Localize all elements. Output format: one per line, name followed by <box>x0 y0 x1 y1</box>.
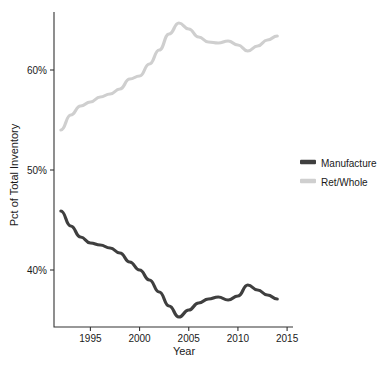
line-chart: 40%50%60% 19952000200520102015 Year Pct … <box>0 0 387 368</box>
legend-swatch-ret-whole <box>300 179 316 183</box>
x-tick-label: 2015 <box>276 333 299 344</box>
legend-swatch-manufacture <box>300 160 316 164</box>
legend: ManufactureRet/Whole <box>300 158 377 188</box>
axis-lines <box>54 12 293 327</box>
y-tick-label: 60% <box>27 65 47 76</box>
x-axis-ticks: 19952000200520102015 <box>79 327 298 344</box>
x-tick-label: 1995 <box>79 333 102 344</box>
y-axis-ticks: 40%50%60% <box>27 65 54 276</box>
series-line-ret-whole <box>61 23 277 130</box>
series-line-manufacture <box>61 211 277 317</box>
legend-label-manufacture: Manufacture <box>321 158 377 169</box>
y-axis-title: Pct of Total Inventory <box>8 123 20 226</box>
x-tick-label: 2010 <box>227 333 250 344</box>
axes <box>54 12 293 327</box>
x-tick-label: 2000 <box>128 333 151 344</box>
chart-figure: 40%50%60% 19952000200520102015 Year Pct … <box>0 0 387 368</box>
x-axis-title: Year <box>173 345 196 357</box>
y-tick-label: 40% <box>27 265 47 276</box>
y-tick-label: 50% <box>27 165 47 176</box>
x-tick-label: 2005 <box>178 333 201 344</box>
data-series <box>61 23 277 317</box>
legend-label-ret-whole: Ret/Whole <box>321 177 368 188</box>
